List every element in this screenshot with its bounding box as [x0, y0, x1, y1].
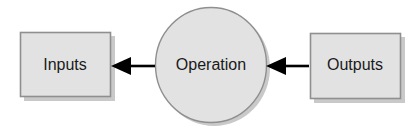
process-flow-diagram: Inputs Operation Outputs [0, 0, 420, 134]
node-outputs[interactable]: Outputs [311, 34, 406, 104]
inputs-label: Inputs [43, 56, 87, 73]
operation-label: Operation [176, 56, 246, 73]
diagram-canvas: Inputs Operation Outputs [0, 0, 420, 134]
arrow-outputs-to-operation [266, 57, 309, 75]
node-inputs[interactable]: Inputs [21, 33, 116, 102]
arrow-operation-to-inputs [111, 57, 155, 75]
node-operation[interactable]: Operation [156, 8, 271, 127]
outputs-label: Outputs [327, 56, 383, 73]
